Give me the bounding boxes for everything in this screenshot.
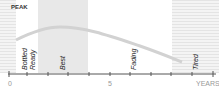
phase-label-best: Best — [59, 55, 66, 70]
peak-label: PEAK — [11, 4, 28, 10]
phase-label-bottled: Bottled — [21, 47, 28, 70]
tick-label-5: 5 — [108, 80, 112, 87]
years-label: YEARS — [196, 80, 219, 87]
phase-label-ready: Ready — [29, 49, 37, 70]
band-bottled — [0, 0, 16, 73]
chart-canvas: PEAK 0 5 YEARS Bottled Ready Best Fading… — [0, 0, 219, 89]
phase-label-tired: Tired — [192, 53, 199, 70]
wine-aging-chart: PEAK 0 5 YEARS Bottled Ready Best Fading… — [0, 0, 219, 89]
tick-label-0: 0 — [8, 80, 12, 87]
phase-label-fading: Fading — [130, 48, 138, 70]
